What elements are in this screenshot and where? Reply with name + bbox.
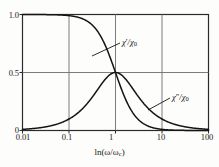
- chart-figure: 1.0 0.5 0 0.01 0.1 1 10 100 ln(ω/ωc) χ′/…: [0, 0, 219, 167]
- y-tick-label-0-5: 0.5: [0, 68, 19, 78]
- axis-ticks: [20, 15, 209, 134]
- x-axis-title-main: ln(ω/ω: [94, 147, 118, 157]
- annotation-leader-lines: [92, 43, 170, 110]
- x-tick-label-10: 10: [150, 132, 172, 142]
- x-tick-label-1: 1: [104, 132, 118, 142]
- x-tick-label-100: 100: [194, 132, 219, 142]
- y-tick-label-1: 1.0: [0, 10, 19, 20]
- chi-prime-label: χ′/χ0: [122, 37, 137, 47]
- x-axis-title: ln(ω/ωc): [0, 147, 219, 157]
- chi-double-prime-label: χ″/χ0: [172, 92, 189, 102]
- x-tick-label-0-1: 0.1: [54, 132, 80, 142]
- x-axis-title-paren: ): [122, 147, 125, 157]
- x-tick-label-0-01: 0.01: [8, 132, 38, 142]
